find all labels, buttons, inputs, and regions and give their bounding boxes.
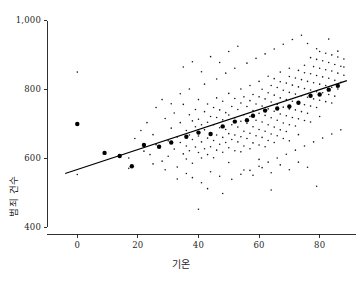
scatter-point [204, 148, 206, 150]
scatter-point [337, 56, 339, 58]
scatter-point [289, 68, 291, 70]
scatter-point [282, 106, 284, 108]
scatter-point [331, 86, 333, 88]
binned-mean-point [169, 140, 173, 144]
scatter-point [298, 134, 300, 136]
scatter-point [228, 147, 230, 149]
scatter-point [231, 139, 233, 141]
scatter-point [216, 134, 218, 136]
x-axis-title: 기온 [0, 256, 362, 271]
axis-spines [47, 21, 356, 234]
scatter-point [198, 208, 200, 210]
scatter-point [279, 71, 281, 73]
scatter-point [279, 129, 281, 131]
scatter-point [128, 157, 130, 159]
scatter-point [240, 88, 242, 90]
scatter-point [198, 135, 200, 137]
scatter-point [270, 133, 272, 135]
scatter-point [246, 106, 248, 108]
scatter-point [319, 116, 321, 118]
y-tick-label: 1,000 [16, 15, 41, 25]
scatter-point [322, 76, 324, 78]
scatter-point [304, 88, 306, 90]
scatter-point [282, 43, 284, 45]
scatter-point [240, 136, 242, 138]
scatter-point [261, 137, 263, 139]
binned-mean-point [296, 100, 300, 104]
scatter-point [261, 105, 263, 107]
scatter-point [213, 140, 215, 142]
scatter-point [331, 133, 333, 135]
scatter-point [201, 141, 203, 143]
scatter-point [192, 177, 194, 179]
y-axis-title: 범죄 건수 [6, 156, 20, 236]
scatter-point [298, 70, 300, 72]
scatter-point [231, 179, 233, 181]
scatter-point [304, 120, 306, 122]
binned-mean-point [221, 124, 225, 128]
scatter-point [213, 157, 215, 159]
binned-mean-point [263, 108, 267, 112]
scatter-point [289, 76, 291, 78]
scatter-point [258, 144, 260, 146]
scatter-point [258, 159, 260, 161]
binned-mean-point [75, 122, 79, 126]
scatter-point [270, 172, 272, 174]
scatter-point [192, 162, 194, 164]
scatter-point [313, 82, 315, 84]
scatter-point [328, 94, 330, 96]
scatter-point [201, 71, 203, 73]
regression-line-path [65, 81, 347, 174]
scatter-point [292, 39, 294, 41]
scatter-point [331, 102, 333, 104]
scatter-point [201, 124, 203, 126]
scatter-point [237, 46, 239, 48]
scatter-point [276, 157, 278, 159]
scatter-point [343, 58, 345, 60]
scatter-point [267, 108, 269, 110]
scatter-point [304, 72, 306, 74]
scatter-point [228, 51, 230, 53]
x-tick-label: 40 [178, 240, 218, 250]
scatter-point [295, 125, 297, 127]
scatter-point [186, 173, 188, 175]
x-tick-label: 0 [57, 240, 97, 250]
scatter-point [298, 118, 300, 120]
scatter-point [267, 140, 269, 142]
scatter-point [198, 118, 200, 120]
scatter-point [249, 100, 251, 102]
scatter-point [270, 189, 272, 191]
scatter-point [325, 52, 327, 54]
scatter-point [186, 158, 188, 160]
scatter-point [140, 130, 142, 132]
scatter-point [334, 80, 336, 82]
scatter-point [310, 73, 312, 75]
scatter-point [246, 62, 248, 64]
scatter-point [164, 118, 166, 120]
scatter-point [252, 94, 254, 96]
binned-mean-point [196, 130, 200, 134]
scatter-point [316, 75, 318, 77]
scatter-point [204, 111, 206, 113]
scatter-point [267, 161, 269, 163]
scatter-point [231, 106, 233, 108]
scatter-point [228, 162, 230, 164]
scatter-point [222, 193, 224, 195]
scatter-point [316, 59, 318, 61]
scatter-point [237, 126, 239, 128]
scatter-point [222, 137, 224, 139]
scatter-point [128, 168, 130, 170]
scatter-point [201, 157, 203, 159]
binned-mean-point [327, 87, 331, 91]
scatter-point [249, 85, 251, 87]
scatter-point [264, 115, 266, 117]
scatter-point [313, 98, 315, 100]
y-tick-label: 400 [24, 222, 41, 232]
scatter-point [143, 150, 145, 152]
scatter-point [192, 61, 194, 63]
scatter-point [228, 133, 230, 135]
scatter-point [179, 93, 181, 95]
scatter-point [255, 135, 257, 137]
scatter-point [325, 101, 327, 103]
scatter-point [76, 71, 78, 73]
